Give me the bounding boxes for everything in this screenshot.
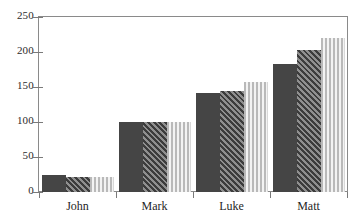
bar [244,82,268,192]
x-axis-tick-mark [193,192,194,198]
y-axis-tick-label: 0 [28,184,34,196]
bars-layer [39,17,347,192]
y-axis-tick-label: 100 [17,114,34,126]
bar [143,122,167,192]
bar [119,122,143,192]
bar [42,175,66,193]
x-axis-category-label: Matt [270,199,347,214]
bar [196,93,220,192]
x-axis-category-label: Luke [193,199,270,214]
y-axis-tick-label: 200 [17,44,34,56]
x-axis-category-label: Mark [116,199,193,214]
y-axis-tick-label: 150 [17,79,34,91]
bar [167,122,191,192]
bar [90,177,114,192]
x-axis-tick-mark [347,192,348,198]
y-axis-tick-label: 250 [17,9,34,21]
bar [321,38,345,192]
y-axis-tick-mark [33,192,43,193]
bar [220,91,244,193]
x-axis-tick-mark [39,192,40,198]
x-axis-tick-mark [270,192,271,198]
y-axis-tick-label: 50 [23,149,34,161]
bar-chart: 250200150100500 JohnMarkLukeMatt [0,0,359,221]
bar [273,64,297,192]
bar [66,177,90,192]
x-axis-tick-mark [116,192,117,198]
x-axis-category-label: John [39,199,116,214]
bar [297,50,321,192]
